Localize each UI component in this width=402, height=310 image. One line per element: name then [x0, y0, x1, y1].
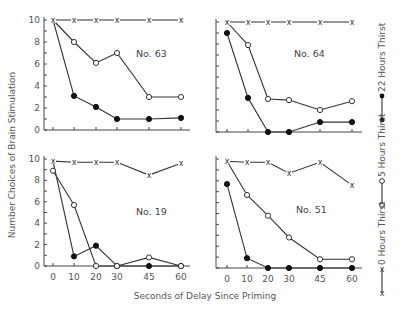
- x-marker: x: [318, 18, 323, 27]
- x-marker: x: [115, 158, 120, 167]
- x-marker: x: [245, 158, 250, 167]
- open-circle-marker: [245, 43, 250, 48]
- legend-item-22h: 22 Hours Thirst: [377, 22, 387, 122]
- legend-item-5h: 5 Hours Thirst: [377, 113, 387, 207]
- panel-no-19: 024681001020304560No. 19xxxxxx: [29, 154, 190, 282]
- filled-circle-marker: [224, 181, 229, 186]
- x-marker: x: [51, 157, 56, 166]
- x-tick-label: 60: [175, 272, 187, 282]
- x-marker: x: [287, 18, 292, 27]
- x-marker: x: [147, 171, 152, 180]
- panel-no-64: No. 64xxxxxx: [216, 18, 362, 135]
- series-0-hours-thirst: xxxxxx: [50, 157, 184, 180]
- open-circle-marker: [50, 168, 55, 173]
- filled-circle-marker: [265, 129, 270, 134]
- x-tick-label: 0: [50, 272, 56, 282]
- legend-label: 5 Hours Thirst: [377, 113, 387, 177]
- open-circle-marker: [93, 263, 98, 268]
- open-circle-marker: [244, 192, 249, 197]
- y-tick-label: 2: [34, 240, 40, 250]
- open-circle-marker: [265, 96, 270, 101]
- x-marker: x: [350, 18, 355, 27]
- y-tick-label: 10: [29, 154, 41, 164]
- open-circle-marker: [178, 263, 183, 268]
- filled-circle-marker: [244, 256, 249, 261]
- x-tick-label: 60: [346, 274, 358, 284]
- svg-text:x: x: [380, 265, 385, 274]
- panel-no-51: 01020304560No. 51xxxxxx: [216, 156, 362, 284]
- open-circle-marker: [71, 202, 76, 207]
- y-tick-label: 0: [34, 125, 40, 135]
- y-tick-label: 10: [29, 15, 41, 25]
- x-marker: x: [115, 16, 120, 25]
- x-marker: x: [350, 181, 355, 190]
- svg-text:x: x: [380, 289, 385, 298]
- x-tick-label: 10: [241, 274, 253, 284]
- x-tick-label: 45: [143, 272, 154, 282]
- open-circle-marker: [71, 39, 76, 44]
- chart-figure: 0246810No. 63xxxxxxNo. 64xxxxxx024681001…: [0, 0, 402, 310]
- x-tick-label: 20: [90, 272, 102, 282]
- panel-title: No. 51: [296, 204, 327, 215]
- series-5-hours-thirst: [50, 168, 183, 268]
- x-marker: x: [287, 169, 292, 178]
- filled-circle-marker: [146, 116, 151, 121]
- x-marker: x: [318, 158, 323, 167]
- open-circle-marker: [93, 60, 98, 65]
- panel-no-63: 0246810No. 63xxxxxx: [29, 15, 190, 135]
- x-marker: x: [225, 157, 230, 166]
- x-marker: x: [147, 16, 152, 25]
- legend: 22 Hours Thirst5 Hours Thirstxx0 Hours T…: [377, 22, 387, 298]
- filled-circle-marker: [93, 104, 98, 109]
- filled-circle-marker: [317, 120, 322, 125]
- series-0-hours-thirst: xxxxxx: [224, 18, 355, 27]
- x-tick-label: 30: [111, 272, 123, 282]
- panel-title: No. 63: [136, 48, 167, 59]
- open-circle-marker: [317, 107, 322, 112]
- series-22-hours-thirst: [224, 30, 354, 134]
- legend-label: 0 Hours Thirst: [377, 201, 387, 265]
- y-tick-label: 2: [34, 103, 40, 113]
- x-marker: x: [72, 158, 77, 167]
- filled-circle-marker: [349, 120, 354, 125]
- panel-title: No. 64: [294, 48, 325, 59]
- x-marker: x: [266, 18, 271, 27]
- open-circle-marker: [265, 213, 270, 218]
- y-axis-title: Number Choices of Brain Stimulation: [7, 72, 17, 239]
- x-tick-label: 30: [283, 274, 295, 284]
- open-circle-marker: [146, 94, 151, 99]
- x-marker: x: [266, 158, 271, 167]
- open-circle-marker: [114, 50, 119, 55]
- y-tick-label: 0: [34, 261, 40, 271]
- y-tick-label: 4: [34, 218, 40, 228]
- open-circle-marker: [349, 99, 354, 104]
- filled-circle-marker: [265, 265, 270, 270]
- open-circle-marker: [114, 263, 119, 268]
- panel-title: No. 19: [136, 206, 167, 217]
- series-22-hours-thirst: [50, 17, 183, 121]
- filled-circle-marker: [71, 93, 76, 98]
- x-marker: x: [179, 16, 184, 25]
- open-circle-marker: [317, 257, 322, 262]
- x-tick-label: 0: [224, 274, 230, 284]
- y-tick-label: 6: [34, 59, 40, 69]
- filled-circle-marker: [317, 265, 322, 270]
- x-marker: x: [179, 159, 184, 168]
- legend-item-0h: xx0 Hours Thirst: [377, 201, 387, 298]
- x-tick-label: 10: [68, 272, 80, 282]
- x-marker: x: [94, 16, 99, 25]
- y-tick-label: 4: [34, 81, 40, 91]
- x-marker: x: [225, 18, 230, 27]
- y-tick-label: 6: [34, 197, 40, 207]
- filled-circle-marker: [71, 254, 76, 259]
- open-circle-marker: [146, 255, 151, 260]
- open-circle-marker: [349, 257, 354, 262]
- filled-circle-marker: [224, 30, 229, 35]
- legend-label: 22 Hours Thirst: [377, 22, 387, 92]
- y-tick-label: 8: [34, 37, 40, 47]
- filled-circle-marker: [286, 265, 291, 270]
- filled-circle-marker: [146, 263, 151, 268]
- filled-circle-marker: [245, 95, 250, 100]
- filled-circle-marker: [93, 243, 98, 248]
- x-tick-label: 20: [262, 274, 274, 284]
